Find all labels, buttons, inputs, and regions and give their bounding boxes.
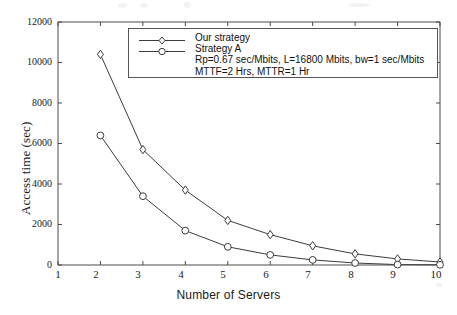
legend-note-reliability: MTTF=2 Hrs, MTTR=1 Hr xyxy=(195,66,437,78)
x-tick-label-6: 6 xyxy=(256,268,276,280)
series-our-strategy xyxy=(97,50,443,266)
x-tick-label-3: 3 xyxy=(128,268,148,280)
x-tick-label-9: 9 xyxy=(383,268,403,280)
legend-swatch-circle xyxy=(137,43,187,54)
scan-artifact xyxy=(184,2,191,8)
chart-figure: 12000 10000 8000 6000 4000 2000 0 1 2 3 … xyxy=(0,0,457,315)
y-tick-label-12000: 12000 xyxy=(12,16,52,27)
y-tick-label-0: 0 xyxy=(12,259,52,270)
x-tick-label-8: 8 xyxy=(341,268,361,280)
x-tick-label-2: 2 xyxy=(86,268,106,280)
x-tick-label-7: 7 xyxy=(298,268,318,280)
series-strategy-a xyxy=(97,132,443,268)
y-tick-label-8000: 8000 xyxy=(12,97,52,108)
legend-note-parameters: Rp=0.67 sec/Mbits, L=16800 Mbits, bw=1 s… xyxy=(195,54,437,66)
chart-legend: Our strategy Strategy A Rp=0.67 sec/Mbit… xyxy=(128,28,438,78)
data-series-layer xyxy=(97,50,443,268)
y-axis-title: Access time (sec) xyxy=(18,122,34,215)
y-tick-label-2000: 2000 xyxy=(12,218,52,229)
legend-label-our-strategy: Our strategy xyxy=(195,32,250,43)
legend-swatch-diamond xyxy=(137,32,187,43)
x-tick-label-5: 5 xyxy=(213,268,233,280)
scan-artifact xyxy=(348,3,370,7)
x-tick-label-4: 4 xyxy=(171,268,191,280)
x-axis-title: Number of Servers xyxy=(0,288,457,302)
legend-item-our-strategy: Our strategy xyxy=(129,32,437,43)
legend-item-strategy-a: Strategy A xyxy=(129,43,437,54)
x-tick-label-10: 10 xyxy=(426,268,446,280)
scan-artifact xyxy=(436,283,442,287)
y-tick-label-10000: 10000 xyxy=(12,56,52,67)
scan-artifact xyxy=(140,3,148,8)
x-tick-label-1: 1 xyxy=(48,268,68,280)
legend-label-strategy-a: Strategy A xyxy=(195,43,241,54)
scan-artifact xyxy=(118,3,127,8)
